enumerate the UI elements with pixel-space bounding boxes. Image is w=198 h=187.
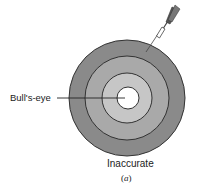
sub-close: ) bbox=[129, 173, 132, 183]
subfigure-label: (a) bbox=[121, 173, 132, 183]
dart-icon bbox=[146, 5, 180, 52]
bullseye-label: Bull's-eye bbox=[10, 92, 51, 103]
caption-label: Inaccurate bbox=[107, 158, 154, 169]
